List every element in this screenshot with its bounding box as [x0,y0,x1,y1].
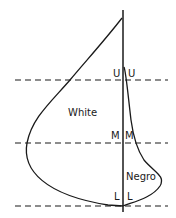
distribution-diagram: U U M M L L White Negro [0,0,176,218]
lower-right-label: L [127,191,133,202]
lower-left-label: L [114,191,120,202]
negro-region-label: Negro [126,171,156,182]
white-region-label: White [68,107,97,118]
middle-right-label: M [125,130,134,141]
upper-left-label: U [113,68,120,79]
upper-right-label: U [128,68,135,79]
middle-left-label: M [111,130,120,141]
